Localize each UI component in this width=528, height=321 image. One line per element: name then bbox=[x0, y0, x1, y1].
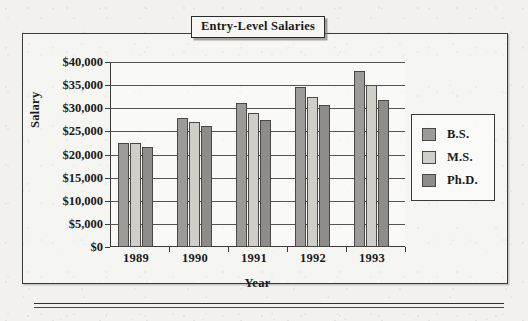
bar-phd-1990 bbox=[201, 126, 212, 247]
y-tick bbox=[105, 85, 110, 86]
y-tick-label: $40,000 bbox=[7, 56, 103, 68]
bar-ms-1989 bbox=[130, 143, 141, 247]
bar-phd-1992 bbox=[319, 105, 330, 247]
chart-title: Entry-Level Salaries bbox=[191, 16, 325, 38]
legend-item-ms: M.S. bbox=[412, 146, 494, 169]
bar-ms-1992 bbox=[307, 97, 318, 247]
x-tick-label-1993: 1993 bbox=[342, 251, 402, 266]
bar-phd-1993 bbox=[378, 100, 389, 247]
bar-bs-1989 bbox=[118, 143, 129, 247]
y-tick bbox=[105, 131, 110, 132]
legend-label: B.S. bbox=[447, 127, 469, 142]
bar-phd-1989 bbox=[142, 147, 153, 247]
y-tick bbox=[105, 224, 110, 225]
y-tick bbox=[105, 155, 110, 156]
bar-ms-1993 bbox=[366, 85, 377, 247]
bar-phd-1991 bbox=[260, 120, 271, 247]
chart-page: Entry-Level Salaries Salary $0$5,000$10,… bbox=[0, 0, 528, 321]
page-rule-bottom bbox=[34, 307, 504, 308]
x-tick-label-1992: 1992 bbox=[283, 251, 343, 266]
bar-ms-1991 bbox=[248, 113, 259, 247]
y-tick bbox=[105, 62, 110, 63]
y-tick-label: $15,000 bbox=[7, 172, 103, 184]
bar-ms-1990 bbox=[189, 122, 200, 247]
y-tick-label: $25,000 bbox=[7, 125, 103, 137]
x-axis-title: Year bbox=[110, 276, 405, 291]
legend-item-bs: B.S. bbox=[412, 123, 494, 146]
bar-bs-1991 bbox=[236, 103, 247, 247]
x-tick-label-1991: 1991 bbox=[224, 251, 284, 266]
legend-label: M.S. bbox=[447, 150, 473, 165]
legend-swatch-icon bbox=[422, 128, 436, 141]
page-rule-top bbox=[34, 303, 504, 304]
bar-bs-1993 bbox=[354, 71, 365, 247]
x-tick-label-1990: 1990 bbox=[165, 251, 225, 266]
y-tick-label: $0 bbox=[7, 241, 103, 253]
y-tick bbox=[105, 108, 110, 109]
x-tick bbox=[405, 247, 406, 252]
bar-bs-1990 bbox=[177, 118, 188, 247]
chart-legend: B.S.M.S.Ph.D. bbox=[411, 114, 495, 201]
gridline bbox=[110, 62, 405, 63]
y-tick bbox=[105, 247, 110, 248]
legend-swatch-icon bbox=[422, 174, 436, 187]
y-tick-label: $5,000 bbox=[7, 218, 103, 230]
y-tick-label: $35,000 bbox=[7, 79, 103, 91]
x-tick-label-1989: 1989 bbox=[106, 251, 166, 266]
y-tick-label: $30,000 bbox=[7, 102, 103, 114]
legend-item-phd: Ph.D. bbox=[412, 169, 494, 192]
y-tick-label: $20,000 bbox=[7, 149, 103, 161]
plot-area: $0$5,000$10,000$15,000$20,000$25,000$30,… bbox=[110, 62, 405, 247]
y-tick bbox=[105, 178, 110, 179]
legend-label: Ph.D. bbox=[447, 173, 478, 188]
y-tick-label: $10,000 bbox=[7, 195, 103, 207]
bar-bs-1992 bbox=[295, 87, 306, 247]
y-tick bbox=[105, 201, 110, 202]
legend-swatch-icon bbox=[422, 151, 436, 164]
